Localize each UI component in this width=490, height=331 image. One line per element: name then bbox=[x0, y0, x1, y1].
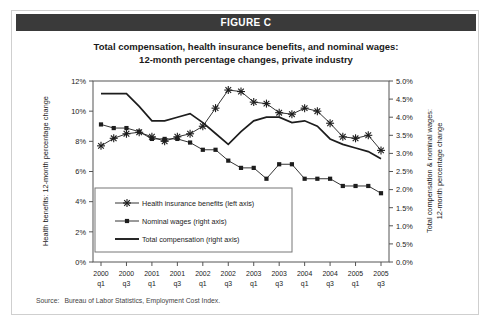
chart-svg: Health benefits: 12-month percentage cha… bbox=[0, 0, 490, 331]
data-point bbox=[315, 177, 319, 181]
x-tick-year: 2004 bbox=[297, 270, 312, 277]
legend-label: Health insurance benefits (left axis) bbox=[142, 199, 254, 208]
data-point bbox=[290, 162, 294, 166]
data-point bbox=[366, 184, 370, 188]
x-tick-year: 2002 bbox=[195, 270, 210, 277]
y-axis-right-title: Total compensation & nominal wages:12-mo… bbox=[425, 109, 444, 233]
x-tick-year: 2001 bbox=[170, 270, 185, 277]
x-tick-quarter: q3 bbox=[326, 280, 334, 288]
y-axis-right-ticks: 0.0%0.5%1.0%1.5%2.0%2.5%3.0%3.5%4.0%4.5%… bbox=[389, 77, 413, 267]
y-axis-left-label: Health benefits: 12-month percentage cha… bbox=[41, 96, 50, 246]
data-point bbox=[353, 184, 357, 188]
y-tick-right: 2.0% bbox=[396, 185, 413, 194]
x-tick-year: 2004 bbox=[322, 270, 337, 277]
y-axis-left-title: Health benefits: 12-month percentage cha… bbox=[41, 96, 50, 246]
legend-label: Nominal wages (right axis) bbox=[142, 217, 227, 226]
y-tick-left: 10% bbox=[71, 107, 86, 116]
x-tick-quarter: q1 bbox=[148, 280, 156, 288]
y-tick-right: 0.0% bbox=[396, 258, 413, 267]
data-point bbox=[303, 177, 307, 181]
data-point bbox=[239, 166, 243, 170]
data-point bbox=[341, 184, 345, 188]
data-point bbox=[379, 191, 383, 195]
data-point bbox=[252, 166, 256, 170]
data-point bbox=[112, 126, 116, 130]
x-tick-year: 2000 bbox=[119, 270, 134, 277]
x-tick-year: 2002 bbox=[221, 270, 236, 277]
y-axis-right-label: Total compensation & nominal wages: bbox=[425, 109, 434, 233]
series-3 bbox=[101, 94, 381, 159]
y-tick-right: 1.5% bbox=[396, 204, 413, 213]
x-tick-year: 2003 bbox=[246, 270, 261, 277]
data-point bbox=[328, 177, 332, 181]
x-tick-year: 2005 bbox=[373, 270, 388, 277]
legend-marker-square bbox=[125, 219, 129, 223]
y-tick-right: 2.5% bbox=[396, 167, 413, 176]
y-tick-right: 4.5% bbox=[396, 95, 413, 104]
data-point bbox=[124, 126, 128, 130]
series-layer bbox=[97, 86, 385, 195]
x-tick-quarter: q1 bbox=[199, 280, 207, 288]
x-tick-quarter: q1 bbox=[352, 280, 360, 288]
y-tick-left: 4% bbox=[75, 197, 86, 206]
y-axis-left-ticks: 0%2%4%6%8%10%12% bbox=[71, 77, 93, 267]
x-tick-quarter: q1 bbox=[97, 280, 105, 288]
x-tick-quarter: q3 bbox=[224, 280, 232, 288]
x-tick-quarter: q1 bbox=[301, 280, 309, 288]
chart-legend: Health insurance benefits (left axis)Nom… bbox=[95, 188, 292, 252]
x-tick-quarter: q3 bbox=[123, 280, 131, 288]
x-tick-quarter: q1 bbox=[250, 280, 258, 288]
y-tick-right: 3.5% bbox=[396, 131, 413, 140]
data-point bbox=[150, 137, 154, 141]
data-point bbox=[201, 148, 205, 152]
y-tick-right: 3.0% bbox=[396, 149, 413, 158]
data-point bbox=[175, 137, 179, 141]
series-2 bbox=[99, 122, 383, 195]
data-point bbox=[264, 177, 268, 181]
y-tick-right: 1.0% bbox=[396, 222, 413, 231]
data-point bbox=[99, 122, 103, 126]
y-tick-right: 5.0% bbox=[396, 77, 413, 86]
y-tick-left: 0% bbox=[75, 258, 86, 267]
y-tick-left: 8% bbox=[75, 137, 86, 146]
y-tick-right: 0.5% bbox=[396, 240, 413, 249]
y-tick-left: 2% bbox=[75, 228, 86, 237]
x-tick-quarter: q3 bbox=[174, 280, 182, 288]
x-axis-ticks: 2000q12000q32001q12001q32002q12002q32003… bbox=[93, 262, 388, 288]
x-tick-year: 2001 bbox=[144, 270, 159, 277]
chart-plot-area: Health benefits: 12-month percentage cha… bbox=[0, 0, 490, 331]
x-tick-year: 2000 bbox=[93, 270, 108, 277]
x-tick-quarter: q3 bbox=[275, 280, 283, 288]
data-point bbox=[277, 162, 281, 166]
y-tick-left: 6% bbox=[75, 167, 86, 176]
x-tick-year: 2005 bbox=[348, 270, 363, 277]
data-point bbox=[188, 140, 192, 144]
x-tick-year: 2003 bbox=[272, 270, 287, 277]
legend-label: Total compensation (right axis) bbox=[142, 235, 239, 244]
data-point bbox=[163, 137, 167, 141]
data-point bbox=[226, 159, 230, 163]
x-tick-quarter: q3 bbox=[377, 280, 385, 288]
data-point bbox=[213, 148, 217, 152]
y-tick-right: 4.0% bbox=[396, 113, 413, 122]
y-axis-right-label: 12-month percentage change bbox=[435, 123, 444, 220]
y-tick-left: 12% bbox=[71, 77, 86, 86]
data-point bbox=[137, 130, 141, 134]
